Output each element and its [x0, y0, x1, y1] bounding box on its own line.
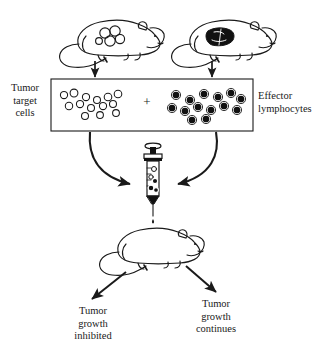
- label-effector-lymphocytes: Effector lymphocytes: [258, 90, 324, 115]
- arrow-to-growth-continues: [186, 266, 216, 292]
- diagram-canvas: [0, 0, 326, 356]
- label-tumor-growth-inhibited: Tumor growth inhibited: [58, 305, 128, 343]
- label-tumor-target-cells: Tumor target cells: [2, 82, 48, 120]
- curved-arrow-left-to-syringe: [90, 132, 130, 184]
- figure-container: Tumor target cells Effector lymphocytes …: [0, 0, 326, 356]
- immunized-mouse: [172, 20, 277, 67]
- curved-arrow-right-to-syringe: [178, 132, 217, 184]
- label-plus-sign: +: [140, 96, 154, 109]
- label-tumor-growth-continues: Tumor growth continues: [178, 298, 254, 336]
- injection-drop: [152, 219, 154, 224]
- syringe-with-cell-mixture: [144, 143, 162, 223]
- arrow-to-growth-inhibited: [92, 272, 126, 299]
- tumor-bearing-mouse: [60, 20, 165, 67]
